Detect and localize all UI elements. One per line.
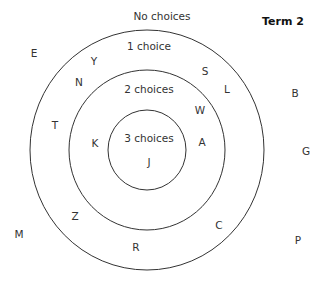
point-label-p: P bbox=[295, 235, 301, 246]
point-label-n: N bbox=[75, 77, 83, 88]
point-label-j: J bbox=[147, 157, 150, 168]
ring-label-1-choice: 1 choice bbox=[127, 41, 171, 52]
inner-ring-3-choices bbox=[108, 110, 186, 190]
outer-ring-1-choice bbox=[30, 30, 264, 270]
point-label-m: M bbox=[14, 229, 23, 240]
point-label-a: A bbox=[198, 137, 205, 148]
point-label-y: Y bbox=[91, 56, 97, 67]
ring-label-no-choices: No choices bbox=[133, 11, 190, 22]
point-label-s: S bbox=[202, 66, 209, 77]
point-label-t: T bbox=[52, 120, 58, 131]
ring-label-3-choices: 3 choices bbox=[124, 133, 174, 144]
diagram-title: Term 2 bbox=[262, 15, 304, 28]
point-label-k: K bbox=[92, 138, 99, 149]
point-label-w: W bbox=[195, 105, 205, 116]
point-label-r: R bbox=[132, 242, 139, 253]
point-label-l: L bbox=[224, 84, 230, 95]
point-label-z: Z bbox=[71, 211, 78, 222]
point-label-c: C bbox=[215, 220, 222, 231]
point-label-g: G bbox=[302, 146, 310, 157]
point-label-b: B bbox=[291, 88, 298, 99]
point-label-e: E bbox=[31, 48, 38, 59]
ring-label-2-choices: 2 choices bbox=[124, 84, 174, 95]
